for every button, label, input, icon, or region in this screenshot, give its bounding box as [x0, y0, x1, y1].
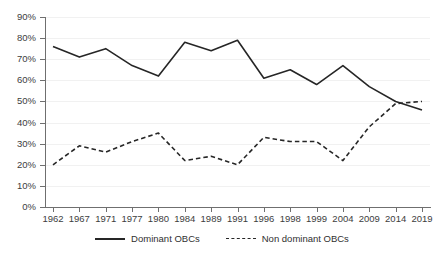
- series-line: [53, 101, 422, 164]
- legend-item-non-dominant-obcs[interactable]: Non dominant OBCs: [226, 234, 349, 244]
- chart-legend: Dominant OBCs Non dominant OBCs: [0, 234, 444, 244]
- legend-item-dominant-obcs[interactable]: Dominant OBCs: [95, 234, 200, 244]
- line-chart: 90%80%70%60%50%40%30%20%10%0% 1962196719…: [0, 0, 444, 259]
- series-layer: [0, 0, 444, 259]
- solid-line-icon: [95, 235, 125, 243]
- legend-item-label: Dominant OBCs: [131, 234, 200, 244]
- legend-item-label: Non dominant OBCs: [262, 234, 349, 244]
- dashed-line-icon: [226, 235, 256, 243]
- series-line: [53, 40, 422, 110]
